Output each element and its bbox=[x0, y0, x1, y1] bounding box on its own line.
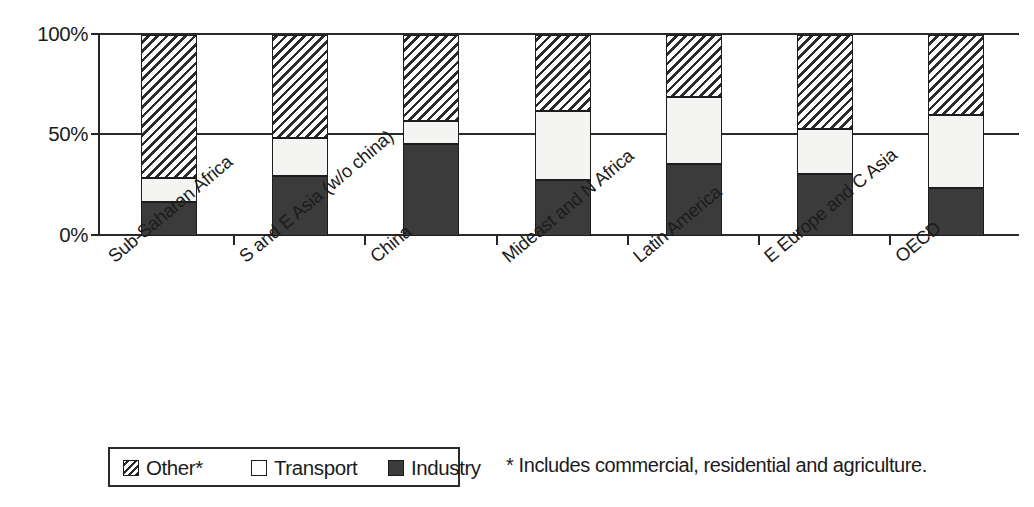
x-axis-tick-4 bbox=[627, 236, 629, 245]
x-axis-tick-3 bbox=[496, 236, 498, 245]
legend-item-industry: Industry bbox=[388, 456, 481, 480]
legend-item-other: Other* bbox=[123, 456, 203, 480]
bar-segment-other bbox=[797, 35, 853, 129]
bar-segment-other bbox=[928, 35, 984, 115]
y-axis-label-100: 100% bbox=[0, 22, 88, 46]
legend-swatch-industry-icon bbox=[388, 460, 404, 476]
bar-segment-transport bbox=[403, 121, 459, 143]
stacked-bar-chart: 100% 50% 0% Sub-Saharan AfricaS and E As… bbox=[0, 0, 1034, 507]
x-axis-tick-5 bbox=[758, 236, 760, 245]
bar-segment-transport bbox=[797, 129, 853, 173]
bar-segment-transport bbox=[535, 111, 591, 179]
footnote: * Includes commercial, residential and a… bbox=[506, 454, 927, 477]
bar-segment-transport bbox=[928, 115, 984, 187]
x-axis-tick-2 bbox=[364, 236, 366, 245]
y-axis-label-50: 50% bbox=[0, 122, 88, 146]
legend: Other* Transport Industry bbox=[108, 447, 460, 487]
y-axis-label-0: 0% bbox=[0, 223, 88, 247]
legend-label-other: Other* bbox=[146, 456, 203, 480]
x-axis-tick-1 bbox=[233, 236, 235, 245]
bar-segment-other bbox=[272, 35, 328, 138]
bar-segment-transport bbox=[666, 97, 722, 163]
legend-label-industry: Industry bbox=[411, 456, 481, 480]
legend-item-transport: Transport bbox=[251, 456, 357, 480]
bar-segment-transport bbox=[272, 138, 328, 176]
bar-segment-other bbox=[141, 35, 197, 178]
bar-segment-other bbox=[403, 35, 459, 121]
legend-swatch-transport-icon bbox=[251, 460, 267, 476]
bar-segment-industry bbox=[403, 144, 459, 236]
bar-segment-other bbox=[666, 35, 722, 97]
x-axis-tick-6 bbox=[889, 236, 891, 245]
legend-label-transport: Transport bbox=[274, 456, 357, 480]
bar-7 bbox=[928, 35, 984, 236]
legend-swatch-other-icon bbox=[123, 460, 139, 476]
bar-segment-other bbox=[535, 35, 591, 111]
bar-3 bbox=[403, 35, 459, 236]
